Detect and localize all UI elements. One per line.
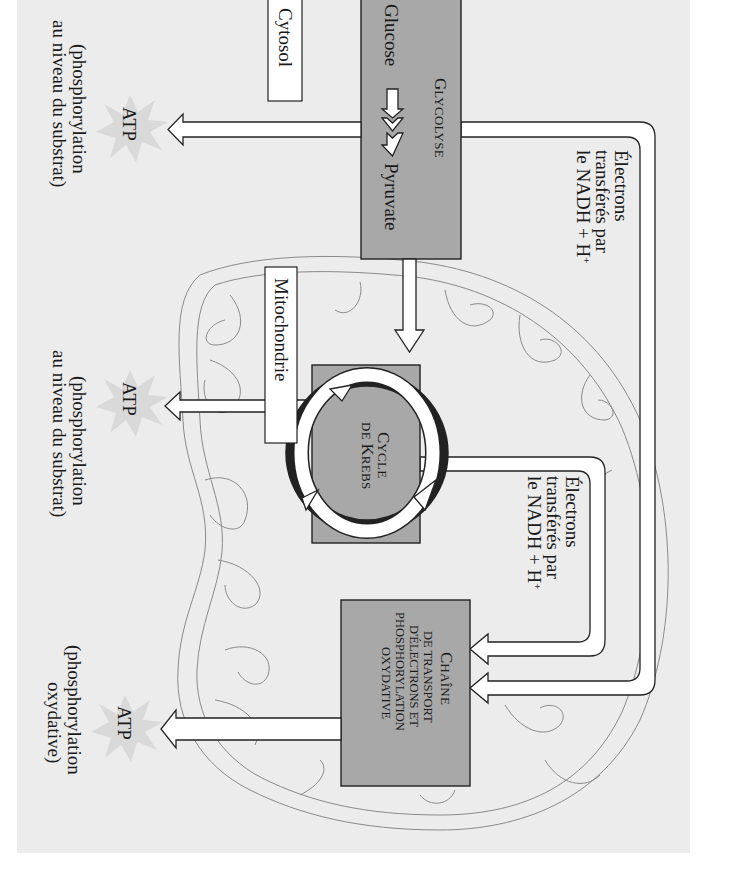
electron-label-line3: le NADH + H+ <box>524 476 545 590</box>
atp-note-line2: oxydative) <box>43 682 65 763</box>
electron-label-line2: transférés par <box>543 476 564 580</box>
chaine-title-cap: C <box>437 652 456 663</box>
chaine-title-line2: DE TRANSPORT <box>421 631 435 723</box>
mitochondrie-label: Mitochondrie <box>271 278 292 381</box>
atp-label: ATP <box>114 706 135 740</box>
krebs-title-line2: DE KREBS <box>358 422 377 489</box>
atp-note-line1: (phosphorylation <box>68 44 90 174</box>
electron-label-sup: + <box>581 257 593 263</box>
pyruvate-label: Pyruvate <box>381 163 402 231</box>
chaine-title-line3: D'ÉLECTRONS ET <box>407 625 421 727</box>
glycolyse-title-cap: G <box>431 78 450 90</box>
electron-label-line1: Électrons <box>562 476 583 548</box>
atp-label: ATP <box>119 382 140 416</box>
krebs-title-prefix: DE <box>359 422 374 443</box>
atp-note-line1: (phosphorylation <box>68 376 90 506</box>
electron-label-nadh: le NADH + H <box>524 476 545 584</box>
atp-note-line1: (phosphorylation <box>63 645 85 775</box>
chaine-title-line5: OXYDATIVE <box>379 647 393 720</box>
atp-note-line2: au niveau du substrat) <box>48 20 70 187</box>
glucose-label: Glucose <box>381 4 402 66</box>
atp-label: ATP <box>119 107 140 141</box>
chaine-title-line4: PHOSPHORYLATION <box>393 612 407 731</box>
krebs-title-cap2: K <box>358 443 377 456</box>
electron-label-nadh: le NADH + H <box>573 150 594 258</box>
glycolyse-title-rest: LYCOLYSE <box>432 90 447 158</box>
electron-label-sup: + <box>532 583 544 589</box>
electron-label-line2: transférés par <box>592 150 613 254</box>
glycolyse-title: GLYCOLYSE <box>431 78 450 158</box>
electron-label-line1: Électrons <box>611 150 632 222</box>
electron-label-line3: le NADH + H+ <box>573 150 594 264</box>
cellular-respiration-diagram: Cytosol Mitochondrie GLYCOLYSE Glucose P… <box>0 0 730 881</box>
cytosol-label: Cytosol <box>275 8 296 67</box>
chaine-title-line1: CHAÎNE <box>437 652 456 705</box>
atp-note-line2: au niveau du substrat) <box>48 350 70 517</box>
krebs-title-rest2: REBS <box>359 456 374 490</box>
krebs-title-cap: C <box>374 432 393 443</box>
chaine-title-rest: HAÎNE <box>438 663 453 705</box>
